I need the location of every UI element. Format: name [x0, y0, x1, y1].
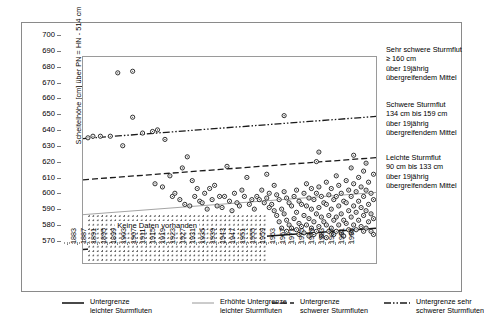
data-point [178, 198, 182, 202]
x-minor-tick [196, 242, 197, 244]
data-point [349, 194, 353, 198]
annotation-range: ≥ 160 cm [386, 54, 462, 63]
y-tick-label: 630 [27, 142, 55, 150]
annotation-line3: über 19jährig [386, 119, 457, 128]
data-point [352, 182, 356, 186]
x-minor-tick [64, 242, 65, 244]
data-point [371, 198, 375, 202]
data-point [217, 194, 221, 198]
annotation-range: 134 cm bis 159 cm [386, 109, 457, 118]
x-minor-tick [181, 242, 182, 244]
x-minor-tick [300, 242, 301, 244]
data-point [357, 175, 361, 179]
x-minor-tick [350, 242, 351, 244]
x-minor-tick [251, 242, 252, 244]
data-point [337, 223, 341, 227]
data-point [240, 188, 244, 192]
y-tick-mark [57, 225, 61, 226]
chart-legend: Untergrenzeleichter SturmflutenErhöhte U… [44, 297, 483, 316]
data-point [371, 172, 375, 176]
x-minor-tick [104, 242, 105, 244]
data-point [160, 185, 164, 189]
data-point [285, 196, 289, 200]
data-point [86, 136, 90, 140]
data-point [232, 191, 236, 195]
data-point [282, 190, 286, 194]
x-minor-tick [320, 242, 321, 244]
y-tick-label: 670 [27, 79, 55, 87]
y-tick-mark [57, 178, 61, 179]
legend-item: Erhöhte Untergrenzeleichter Sturmfluten [220, 297, 287, 315]
data-point [108, 134, 112, 138]
data-point [173, 191, 177, 195]
data-point [272, 209, 276, 213]
x-minor-tick [119, 242, 120, 244]
x-minor-tick [221, 242, 222, 244]
y-tick-mark [57, 67, 61, 68]
x-minor-tick [89, 242, 90, 244]
data-point [366, 180, 370, 184]
x-minor-tick [340, 242, 341, 244]
x-minor-tick [144, 242, 145, 244]
data-point [334, 174, 338, 178]
data-point [265, 196, 269, 200]
data-point [309, 207, 313, 211]
x-minor-tick [87, 242, 88, 244]
x-minor-tick [268, 242, 269, 244]
x-minor-tick [335, 242, 336, 244]
x-minor-tick [141, 242, 142, 244]
x-minor-tick [236, 242, 237, 244]
data-point [339, 212, 343, 216]
data-point [131, 69, 135, 73]
data-point [245, 175, 249, 179]
x-minor-tick [179, 242, 180, 244]
data-point [285, 218, 289, 222]
data-point [304, 204, 308, 208]
data-point [277, 220, 281, 224]
x-minor-tick [82, 242, 83, 244]
y-tick-label: 590 [27, 205, 55, 213]
data-point [260, 188, 264, 192]
data-point [339, 191, 343, 195]
x-minor-tick [204, 242, 205, 244]
x-minor-tick [72, 242, 73, 244]
data-point [357, 199, 361, 203]
data-point [302, 191, 306, 195]
x-minor-tick [238, 242, 239, 244]
x-minor-tick [189, 242, 190, 244]
data-point [354, 210, 358, 214]
x-minor-tick [330, 242, 331, 244]
annotation-line4: übergreifendem Mittel [386, 181, 457, 190]
data-point [289, 204, 293, 208]
data-point [292, 217, 296, 221]
annotation-line4: übergreifendem Mittel [386, 128, 457, 137]
x-minor-tick [209, 242, 210, 244]
x-minor-tick [156, 242, 157, 244]
data-point [275, 213, 279, 217]
annotation-line3: über 19jährig [386, 64, 462, 73]
data-point [334, 215, 338, 219]
x-minor-tick [109, 242, 110, 244]
data-point [299, 202, 303, 206]
data-point [195, 186, 199, 190]
data-point [307, 217, 311, 221]
x-minor-tick [171, 242, 172, 244]
x-minor-tick [256, 242, 257, 244]
data-point [230, 209, 234, 213]
data-point [329, 207, 333, 211]
annotation-title: Sehr schwere Sturmflut [386, 45, 462, 54]
data-point [359, 205, 363, 209]
data-point [302, 213, 306, 217]
x-minor-tick [174, 242, 175, 244]
data-point [357, 218, 361, 222]
trend-line [83, 158, 376, 180]
annotation-line4: übergreifendem Mittel [386, 73, 462, 82]
data-point [312, 198, 316, 202]
annotation-line3: über 19jährig [386, 172, 457, 181]
x-minor-tick [273, 242, 274, 244]
x-minor-tick [281, 242, 282, 244]
data-point [185, 155, 189, 159]
x-minor-tick [263, 242, 264, 244]
data-point [319, 194, 323, 198]
data-point [366, 220, 370, 224]
